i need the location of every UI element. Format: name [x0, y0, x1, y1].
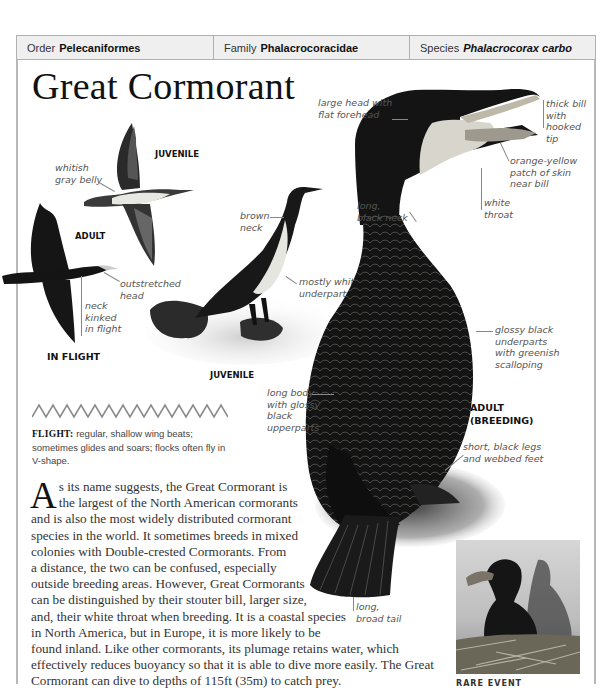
label-brown-neck: brown neck — [240, 210, 270, 233]
page-frame-left — [16, 35, 18, 684]
label-thick-bill: thick bill with hooked tip — [546, 98, 586, 144]
adult-breeding-tag: ADULT (BREEDING) — [470, 401, 533, 427]
flight-note: FLIGHT: regular, shallow wing beats; som… — [32, 427, 232, 467]
label-long-neck: long, black neck — [357, 200, 408, 223]
leader-line — [81, 276, 82, 336]
label-large-head: large head with flat forehead — [318, 97, 392, 120]
adult-flight-tag: ADULT — [75, 230, 105, 242]
taxonomy-species: Species Phalacrocorax carbo — [409, 36, 595, 59]
leader-line — [476, 331, 493, 332]
flight-note-label: FLIGHT: — [32, 429, 74, 439]
leader-line — [270, 217, 284, 218]
drop-cap: A — [30, 481, 57, 511]
photo-caption: RARE EVENT — [456, 679, 522, 688]
leader-line — [312, 394, 334, 395]
page-frame-right — [594, 35, 596, 684]
page-title: Great Cormorant — [32, 64, 295, 108]
taxonomy-order: Order Pelecaniformes — [17, 36, 213, 59]
label-short-legs: short, black legs and webbed feet — [463, 441, 543, 464]
order-label: Order — [27, 42, 55, 54]
label-white-throat: white throat — [484, 197, 513, 220]
order-value: Pelecaniformes — [59, 42, 140, 54]
juvenile-standing-tag: JUVENILE — [210, 369, 254, 381]
juvenile-flight-tag: JUVENILE — [155, 148, 199, 160]
leader-line — [543, 100, 544, 128]
nesting-cormorant-photo — [456, 540, 580, 674]
label-neck-kinked: neck kinked in flight — [85, 300, 121, 335]
taxonomy-family: Family Phalacrocoracidae — [213, 36, 409, 59]
label-whitish-belly: whitish gray belly — [55, 162, 102, 185]
taxonomy-bar: Order Pelecaniformes Family Phalacrocora… — [16, 35, 596, 60]
label-glossy-underparts: glossy black underparts with greenish sc… — [495, 324, 559, 370]
in-flight-heading: IN FLIGHT — [47, 351, 100, 363]
family-label: Family — [224, 42, 256, 54]
label-orange-patch: orange-yellow patch of skin near bill — [510, 155, 577, 190]
leader-line — [481, 168, 482, 210]
leader-line — [392, 119, 408, 120]
species-value: Phalacrocorax carbo — [463, 42, 572, 54]
species-label: Species — [420, 42, 459, 54]
flight-pattern-icon — [32, 403, 228, 419]
family-value: Phalacrocoracidae — [260, 42, 358, 54]
